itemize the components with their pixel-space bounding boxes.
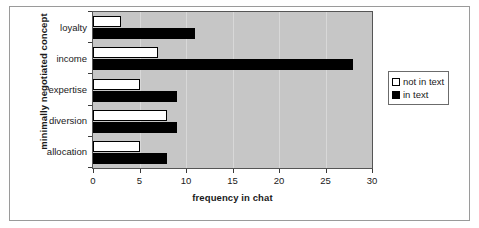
y-axis-tick xyxy=(88,167,92,168)
chart-figure: minimally negotiated concept loyaltyinco… xyxy=(0,0,479,228)
x-axis-tick-label: 30 xyxy=(357,175,387,186)
legend-label: not in text xyxy=(403,76,444,87)
x-axis-title: frequency in chat xyxy=(92,192,373,203)
x-axis-tick xyxy=(140,169,141,173)
gridline xyxy=(233,12,234,168)
bar-in-text xyxy=(93,153,167,164)
bar-not-in-text xyxy=(93,110,167,121)
gridline xyxy=(372,12,373,168)
x-axis-tick xyxy=(372,169,373,173)
bar-in-text xyxy=(93,122,177,133)
x-axis-tick-label: 15 xyxy=(218,175,248,186)
y-axis-tick xyxy=(88,42,92,43)
x-axis-tick-label: 0 xyxy=(78,175,108,186)
x-axis-tick-label: 5 xyxy=(125,175,155,186)
y-axis-tick-label: allocation xyxy=(22,146,87,157)
x-axis-tick xyxy=(186,169,187,173)
bar-in-text xyxy=(93,59,353,70)
y-axis-tick xyxy=(88,73,92,74)
x-axis-tick-label: 25 xyxy=(311,175,341,186)
y-axis-tick-label: diversion xyxy=(22,115,87,126)
y-axis-tick-label: expertise xyxy=(22,84,87,95)
bar-not-in-text xyxy=(93,16,121,27)
legend-label: in text xyxy=(403,89,428,100)
y-axis-tick-label: income xyxy=(22,52,87,63)
legend-entry: not in text xyxy=(392,75,444,88)
x-axis-tick xyxy=(279,169,280,173)
bar-not-in-text xyxy=(93,141,140,152)
y-axis-tick-label: loyalty xyxy=(22,21,87,32)
y-axis-tick xyxy=(88,105,92,106)
y-axis-tick xyxy=(88,136,92,137)
y-axis-tick-labels: loyaltyincomeexpertisediversionallocatio… xyxy=(22,11,87,169)
y-axis-tick xyxy=(88,11,92,12)
legend-swatch-icon xyxy=(392,78,400,86)
bar-in-text xyxy=(93,91,177,102)
x-axis-tick xyxy=(93,169,94,173)
bar-not-in-text xyxy=(93,79,140,90)
x-axis-tick-label: 20 xyxy=(264,175,294,186)
gridline xyxy=(279,12,280,168)
x-axis-tick xyxy=(326,169,327,173)
plot-area xyxy=(92,11,373,169)
x-axis-tick xyxy=(233,169,234,173)
x-axis-tick-label: 10 xyxy=(171,175,201,186)
gridline xyxy=(326,12,327,168)
bar-not-in-text xyxy=(93,47,158,58)
legend-entry: in text xyxy=(392,88,444,101)
legend-swatch-icon xyxy=(392,91,400,99)
bar-in-text xyxy=(93,28,195,39)
chart-legend: not in textin text xyxy=(388,71,449,105)
